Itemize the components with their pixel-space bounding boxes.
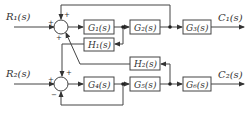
block-g2-label: G₂(s) — [134, 23, 157, 33]
pickoff-dot — [121, 25, 125, 29]
block-g5-label: G₅(s) — [134, 80, 157, 90]
sign-top-top: + — [64, 11, 70, 19]
sign-bottom-left: + — [48, 76, 54, 84]
sum-junction-bottom — [54, 77, 68, 91]
sum-junction-top — [54, 20, 68, 34]
output-label-c1: C₁(s) — [218, 12, 243, 23]
pickoff-dot — [168, 25, 172, 29]
block-g4-label: G₄(s) — [88, 80, 111, 90]
sign-top-bottom: + — [56, 34, 62, 42]
output-label-c2: C₂(s) — [218, 69, 243, 80]
block-g6-label: G₆(s) — [186, 80, 209, 90]
sign-top-left: + — [48, 19, 54, 27]
block-g3-label: G₃(s) — [186, 23, 209, 33]
input-label-r1: R₁(s) — [5, 11, 31, 22]
pickoff-dot — [168, 82, 172, 86]
block-g1-label: G₁(s) — [88, 23, 111, 33]
block-h2-label: H₂(s) — [133, 59, 158, 69]
block-h1-label: H₁(s) — [87, 40, 112, 50]
input-label-r2: R₂(s) — [5, 68, 31, 79]
block-diagram: R₁(s) R₂(s) C₁(s) C₂(s) G₁(s) G₂(s) G₃(s… — [0, 0, 251, 116]
sign-bottom-bottom: − — [51, 91, 57, 99]
sign-bottom-top: + — [66, 69, 72, 77]
pickoff-dot — [121, 82, 125, 86]
